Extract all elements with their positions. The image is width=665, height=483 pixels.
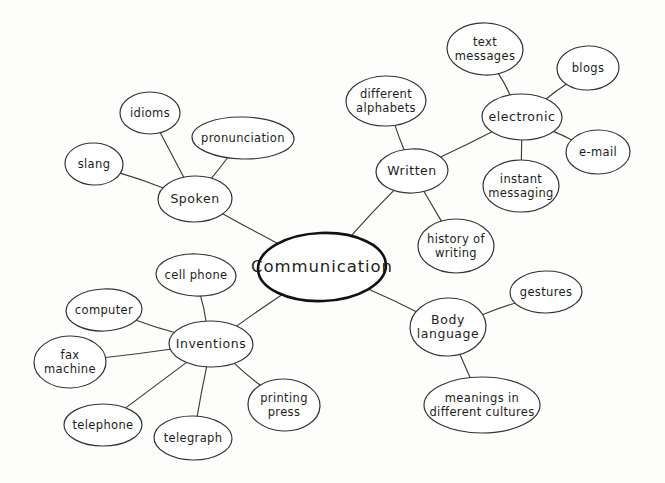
node-printing-press[interactable]: printingpress (247, 378, 321, 433)
node-text-messages[interactable]: textmessages (446, 22, 524, 77)
node-gestures[interactable]: gestures (510, 270, 583, 313)
node-label-written: Written (387, 163, 437, 178)
edge-communication-to-spoken (223, 214, 277, 243)
node-body-language[interactable]: Bodylanguage (409, 297, 487, 358)
node-idioms[interactable]: idioms (120, 92, 180, 134)
edge-inventions-to-cell-phone (201, 296, 207, 321)
node-different-alphabets[interactable]: differentalphabets (346, 75, 427, 127)
edge-inventions-to-fax-machine (106, 349, 171, 357)
edge-body-language-to-meanings-in-different-cultures (460, 355, 470, 378)
edge-written-to-different-alphabets (395, 125, 404, 149)
node-label-gestures: gestures (520, 285, 573, 299)
node-computer[interactable]: computer (65, 288, 143, 333)
edge-communication-to-inventions (237, 294, 283, 326)
node-layer: CommunicationSpokenidiomspronunciationsl… (34, 22, 631, 461)
node-label-computer: computer (75, 303, 133, 317)
node-label-telephone: telephone (73, 418, 134, 432)
node-label-e-mail: e-mail (579, 145, 617, 159)
node-meanings-in-different-cultures[interactable]: meanings indifferent cultures (424, 377, 540, 433)
node-slang[interactable]: slang (64, 142, 124, 186)
node-label-blogs: blogs (572, 61, 605, 75)
edge-inventions-to-computer (137, 321, 175, 333)
node-label-cell-phone: cell phone (165, 268, 228, 282)
node-history-of-writing[interactable]: history ofwriting (418, 219, 494, 273)
node-inventions[interactable]: Inventions (169, 320, 254, 368)
edge-inventions-to-telephone (126, 363, 187, 408)
node-e-mail[interactable]: e-mail (566, 129, 631, 174)
node-label-inventions: Inventions (176, 336, 247, 351)
node-written[interactable]: Written (375, 148, 449, 195)
mind-map-diagram: CommunicationSpokenidiomspronunciationsl… (0, 0, 665, 483)
edge-communication-to-written (351, 190, 395, 237)
node-electronic[interactable]: electronic (482, 93, 563, 141)
edge-communication-to-body-language (370, 290, 416, 312)
edge-body-language-to-gestures (482, 303, 515, 315)
edge-written-to-electronic (440, 132, 492, 157)
edge-electronic-to-e-mail (553, 131, 571, 139)
node-fax-machine[interactable]: faxmachine (34, 335, 107, 388)
node-instant-messaging[interactable]: instantmessaging (483, 160, 559, 212)
edge-electronic-to-text-messages (498, 73, 510, 95)
node-label-meanings-in-different-cultures: meanings indifferent cultures (429, 391, 534, 419)
edge-inventions-to-printing-press (234, 363, 261, 385)
node-label-history-of-writing: history ofwriting (427, 232, 485, 260)
edge-inventions-to-telegraph (197, 367, 206, 416)
node-pronunciation[interactable]: pronunciation (192, 116, 295, 160)
edge-spoken-to-pronunciation (211, 158, 227, 178)
node-label-slang: slang (78, 157, 111, 171)
node-telephone[interactable]: telephone (64, 404, 142, 446)
node-telegraph[interactable]: telegraph (154, 415, 233, 460)
node-label-electronic: electronic (489, 109, 556, 124)
node-label-telegraph: telegraph (164, 431, 223, 445)
node-label-communication: Communication (251, 257, 393, 276)
edge-electronic-to-blogs (547, 84, 567, 99)
node-spoken[interactable]: Spoken (158, 175, 233, 222)
node-blogs[interactable]: blogs (556, 45, 620, 91)
node-label-idioms: idioms (130, 106, 170, 120)
node-label-different-alphabets: differentalphabets (356, 87, 416, 115)
edge-written-to-history-of-writing (424, 192, 441, 221)
node-communication[interactable]: Communication (251, 231, 393, 304)
edge-spoken-to-idioms (160, 133, 183, 177)
node-label-pronunciation: pronunciation (201, 131, 285, 145)
edge-spoken-to-slang (120, 173, 163, 188)
node-cell-phone[interactable]: cell phone (155, 252, 237, 297)
node-label-spoken: Spoken (170, 191, 219, 206)
